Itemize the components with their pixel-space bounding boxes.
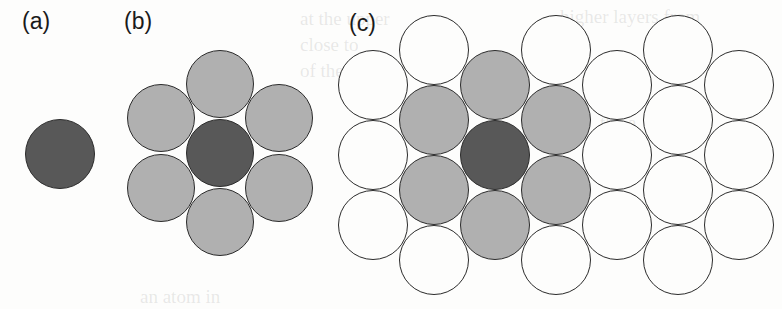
atom-circle-second	[338, 190, 408, 260]
atom-circle-first	[399, 85, 469, 155]
atom-circle-outer	[643, 155, 713, 225]
atom-circle-second	[399, 225, 469, 295]
atom-circle-outer	[643, 225, 713, 295]
atom-circle-outer	[704, 190, 774, 260]
atom-circle-first	[521, 85, 591, 155]
atom-circle-second	[582, 120, 652, 190]
panel-c-second-shell	[0, 0, 782, 309]
atom-circle-first	[399, 155, 469, 225]
atom-circle-second	[338, 50, 408, 120]
atom-circle-central	[460, 120, 530, 190]
figure-canvas: at the upperclose toof the surfhigher la…	[0, 0, 782, 309]
atom-circle-second	[582, 50, 652, 120]
atom-circle-first	[460, 190, 530, 260]
atom-circle-first	[521, 155, 591, 225]
atom-circle-outer	[643, 85, 713, 155]
atom-circle-second	[399, 15, 469, 85]
atom-circle-second	[582, 190, 652, 260]
atom-circle-outer	[704, 120, 774, 190]
atom-circle-second	[338, 120, 408, 190]
atom-circle-second	[521, 225, 591, 295]
atom-circle-second	[521, 15, 591, 85]
atom-circle-outer	[704, 50, 774, 120]
atom-circle-first	[460, 50, 530, 120]
atom-circle-outer	[643, 15, 713, 85]
